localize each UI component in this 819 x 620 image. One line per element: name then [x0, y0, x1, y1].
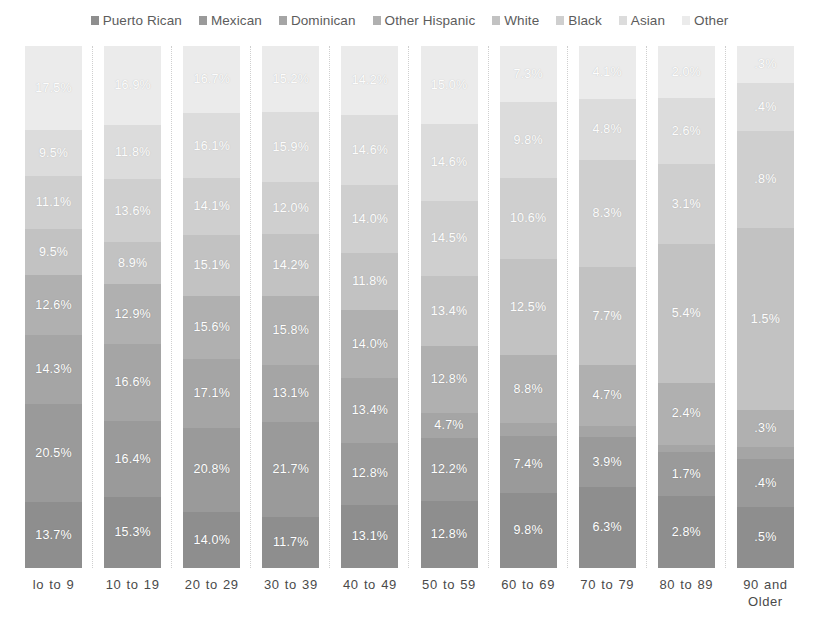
column-segment[interactable]: 11.8% — [104, 125, 161, 180]
column-segment[interactable]: 15.0% — [421, 46, 478, 124]
column-segment[interactable]: 12.6% — [25, 275, 82, 336]
column-segment[interactable]: 9.5% — [25, 130, 82, 176]
column-segment[interactable]: 12.9% — [104, 284, 161, 344]
column-segment[interactable]: 16.1% — [183, 113, 240, 178]
column-segment[interactable]: .1% — [737, 447, 794, 459]
column-segment[interactable]: 15.8% — [262, 296, 319, 365]
column-segment[interactable]: 7.3% — [500, 46, 557, 102]
column-segment[interactable]: 20.8% — [183, 428, 240, 512]
column-segment[interactable]: 4.7% — [421, 413, 478, 438]
column-segment[interactable]: 11.1% — [25, 176, 82, 229]
legend-item[interactable]: Dominican — [279, 13, 356, 28]
column-segment[interactable]: 12.0% — [262, 182, 319, 234]
column-segment[interactable]: .5% — [737, 507, 794, 568]
stacked-column[interactable]: 11.7%21.7%13.1%15.8%14.2%12.0%15.9%15.2% — [262, 46, 319, 568]
column-segment[interactable]: 2.4% — [658, 383, 715, 445]
legend-item[interactable]: Other — [682, 13, 728, 28]
column-segment[interactable]: 16.6% — [104, 344, 161, 421]
column-segment[interactable]: 14.5% — [421, 201, 478, 277]
column-segment[interactable]: 15.3% — [104, 497, 161, 568]
stacked-column[interactable]: .5%.4%.1%.3%1.5%.8%.4%.3% — [737, 46, 794, 568]
stacked-column[interactable]: 12.8%12.2%4.7%12.8%13.4%14.5%14.6%15.0% — [421, 46, 478, 568]
column-segment[interactable]: 4.1% — [579, 46, 636, 99]
column-segment[interactable]: 1.7% — [500, 423, 557, 436]
stacked-column[interactable]: 13.7%20.5%14.3%12.6%9.5%11.1%9.5%17.5% — [25, 46, 82, 568]
column-segment[interactable]: 3.1% — [658, 164, 715, 244]
column-segment[interactable]: .3% — [737, 410, 794, 446]
column-segment[interactable]: .3% — [658, 445, 715, 453]
column-segment[interactable]: 15.9% — [262, 112, 319, 181]
column-segment[interactable]: 2.6% — [658, 98, 715, 165]
column-segment[interactable]: .3% — [737, 46, 794, 82]
stacked-column[interactable]: 6.3%3.9%.9%4.7%7.7%8.3%4.8%4.1% — [579, 46, 636, 568]
column-segment[interactable]: 15.2% — [262, 46, 319, 112]
column-segment[interactable]: 1.7% — [658, 452, 715, 496]
column-segment[interactable]: 12.8% — [421, 501, 478, 568]
stacked-column[interactable]: 14.0%20.8%17.1%15.6%15.1%14.1%16.1%16.7% — [183, 46, 240, 568]
column-segment[interactable]: 15.1% — [183, 235, 240, 296]
column-segment[interactable]: 14.3% — [25, 335, 82, 404]
column-segment[interactable]: 7.4% — [500, 436, 557, 493]
column-segment[interactable]: 4.7% — [579, 365, 636, 425]
column-segment[interactable]: 9.5% — [25, 229, 82, 275]
legend-item[interactable]: Puerto Rican — [91, 13, 182, 28]
column-segment[interactable]: 14.2% — [341, 46, 398, 115]
column-segment[interactable]: .8% — [737, 131, 794, 228]
column-segment[interactable]: 14.0% — [183, 512, 240, 568]
column-segment[interactable]: 14.6% — [421, 124, 478, 200]
column-segment[interactable]: 16.7% — [183, 46, 240, 113]
column-segment[interactable]: 13.6% — [104, 179, 161, 242]
column-segment[interactable]: 8.9% — [104, 242, 161, 283]
column-segment[interactable]: 16.9% — [104, 46, 161, 124]
column-segment[interactable]: 13.4% — [421, 276, 478, 346]
column-segment[interactable]: 9.8% — [500, 102, 557, 177]
stacked-column[interactable]: 15.3%16.4%16.6%12.9%8.9%13.6%11.8%16.9% — [104, 46, 161, 568]
stacked-column[interactable]: 9.8%7.4%1.7%8.8%12.5%10.6%9.8%7.3% — [500, 46, 557, 568]
column-segment[interactable]: 17.1% — [183, 359, 240, 428]
column-segment[interactable]: 14.6% — [341, 115, 398, 186]
legend-item[interactable]: Other Hispanic — [373, 13, 476, 28]
stacked-column[interactable]: 2.8%1.7%.3%2.4%5.4%3.1%2.6%2.0% — [658, 46, 715, 568]
column-segment[interactable]: 4.8% — [579, 99, 636, 161]
column-segment[interactable]: 16.4% — [104, 421, 161, 497]
column-segment[interactable]: 14.2% — [262, 234, 319, 296]
column-segment[interactable]: 5.4% — [658, 244, 715, 383]
legend-item-label: Other — [694, 13, 728, 28]
column-segment[interactable]: 14.0% — [341, 185, 398, 253]
legend-item[interactable]: Black — [556, 13, 602, 28]
column-segment[interactable]: 6.3% — [579, 487, 636, 568]
column-segment[interactable]: 15.6% — [183, 296, 240, 359]
column-segment[interactable]: 13.1% — [262, 365, 319, 422]
legend-item[interactable]: Mexican — [199, 13, 262, 28]
column-segment[interactable]: 11.8% — [341, 253, 398, 310]
legend-item[interactable]: Asian — [619, 13, 665, 28]
column-segment[interactable]: 2.8% — [658, 496, 715, 568]
column-segment[interactable]: 7.7% — [579, 267, 636, 366]
column-segment[interactable]: 9.8% — [500, 493, 557, 568]
column-segment[interactable]: 20.5% — [25, 404, 82, 502]
column-segment[interactable]: 12.8% — [421, 346, 478, 413]
column-segment[interactable]: .9% — [579, 426, 636, 438]
legend-item[interactable]: White — [492, 13, 539, 28]
column-segment[interactable]: .4% — [737, 83, 794, 132]
segment-value-label: 14.5% — [431, 232, 467, 245]
column-segment[interactable]: 8.8% — [500, 355, 557, 423]
column-segment[interactable]: 21.7% — [262, 422, 319, 517]
column-segment[interactable]: 12.8% — [341, 443, 398, 505]
column-segment[interactable]: 14.1% — [183, 178, 240, 235]
column-segment[interactable]: 2.0% — [658, 46, 715, 97]
column-segment[interactable]: 13.4% — [341, 378, 398, 443]
column-segment[interactable]: 3.9% — [579, 437, 636, 487]
column-segment[interactable]: 13.1% — [341, 505, 398, 568]
stacked-column[interactable]: 13.1%12.8%13.4%14.0%11.8%14.0%14.6%14.2% — [341, 46, 398, 568]
column-segment[interactable]: 12.5% — [500, 259, 557, 355]
column-segment[interactable]: 10.6% — [500, 178, 557, 259]
column-segment[interactable]: 8.3% — [579, 160, 636, 266]
column-segment[interactable]: 11.7% — [262, 517, 319, 568]
column-segment[interactable]: 13.7% — [25, 502, 82, 568]
column-segment[interactable]: .4% — [737, 459, 794, 508]
column-segment[interactable]: 1.5% — [737, 228, 794, 410]
column-segment[interactable]: 14.0% — [341, 310, 398, 378]
column-segment[interactable]: 12.2% — [421, 438, 478, 502]
column-segment[interactable]: 17.5% — [25, 46, 82, 130]
